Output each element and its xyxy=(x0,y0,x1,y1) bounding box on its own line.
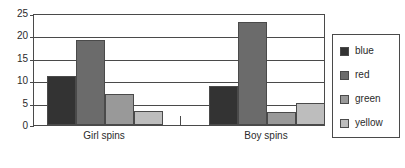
bar-boy-spins-red xyxy=(238,22,267,125)
legend-label-green: green xyxy=(355,94,381,104)
bar-boy-spins-green xyxy=(267,112,296,125)
axis-tick-0 xyxy=(30,126,34,127)
x-category-label-boy-spins: Boy spins xyxy=(226,130,306,142)
legend-item-red[interactable]: red xyxy=(340,69,369,81)
legend-label-yellow: yellow xyxy=(355,118,383,128)
y-tick-label-10: 10 xyxy=(0,76,28,86)
bar-boy-spins-yellow xyxy=(296,103,325,125)
y-tick-label-15: 15 xyxy=(0,54,28,64)
bars-layer xyxy=(34,15,324,125)
bar-girl-spins-blue xyxy=(47,76,76,125)
y-tick-label-25: 25 xyxy=(0,9,28,19)
legend-item-blue[interactable]: blue xyxy=(340,45,374,57)
legend-item-green[interactable]: green xyxy=(340,93,381,105)
legend-swatch-blue xyxy=(340,47,349,56)
y-tick-label-5: 5 xyxy=(0,99,28,109)
x-category-label-girl-spins: Girl spins xyxy=(64,130,144,142)
legend: blueredgreenyellow xyxy=(332,34,400,138)
legend-swatch-green xyxy=(340,95,349,104)
legend-label-red: red xyxy=(355,70,369,80)
plot-area xyxy=(33,14,325,126)
bar-girl-spins-green xyxy=(105,94,134,125)
legend-swatch-red xyxy=(340,71,349,80)
x-axis-category-labels: Girl spinsBoy spins xyxy=(33,130,325,150)
legend-swatch-yellow xyxy=(340,119,349,128)
bar-girl-spins-red xyxy=(76,40,105,125)
bar-boy-spins-blue xyxy=(209,86,238,125)
y-tick-label-20: 20 xyxy=(0,31,28,41)
bar-chart: 0510152025 Girl spinsBoy spins blueredgr… xyxy=(0,0,405,168)
x-axis-minor-tick xyxy=(180,116,181,125)
y-tick-label-0: 0 xyxy=(0,121,28,131)
y-axis-tick-labels: 0510152025 xyxy=(0,14,28,126)
legend-item-yellow[interactable]: yellow xyxy=(340,117,383,129)
bar-girl-spins-yellow xyxy=(134,111,163,125)
legend-label-blue: blue xyxy=(355,46,374,56)
